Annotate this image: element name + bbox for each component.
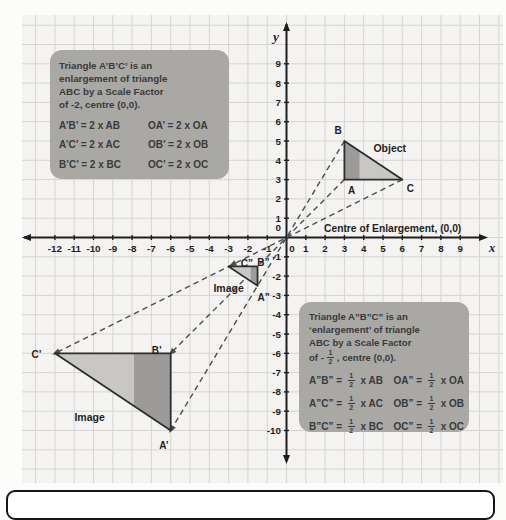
infobox-line: ‘enlargement’ of triangle	[309, 323, 464, 336]
x-tick-label: 7	[419, 243, 425, 254]
vertex-label: B’	[152, 345, 162, 356]
x-tick-label: -9	[108, 243, 117, 254]
equation-list: A’B’ = 2 x AB OA’ = 2 x OA A’C’ = 2 x AC…	[59, 120, 223, 170]
equation: A”C” = 12 x AC	[309, 395, 394, 412]
equation: OB’ = 2 x OB	[148, 139, 208, 150]
y-tick-label: 0	[276, 222, 282, 233]
next-section-frame	[6, 490, 495, 520]
x-tick-label: 2	[322, 243, 328, 254]
infobox-line: enlargement of triangle	[59, 72, 223, 85]
y-tick-label: 9	[276, 58, 282, 69]
x-tick-label: -11	[67, 243, 81, 254]
x-tick-label: 3	[342, 243, 348, 254]
equation: A’C’ = 2 x AC	[59, 139, 148, 150]
y-tick-label: 6	[276, 116, 282, 127]
equation: A’B’ = 2 x AB	[59, 120, 148, 131]
triangle-name-label: Object	[373, 142, 406, 154]
y-tick-label: 3	[276, 174, 282, 185]
infobox-line: Triangle A”B”C” is an	[309, 310, 464, 323]
one-half-fraction: 12	[428, 372, 435, 389]
y-tick-label: -2	[272, 271, 281, 282]
y-tick-label: 5	[276, 136, 282, 147]
equation-row: A’B’ = 2 x AB OA’ = 2 x OA	[59, 120, 223, 131]
equation-row: A’C’ = 2 x AC OB’ = 2 x OB	[59, 139, 223, 150]
x-tick-label: 4	[361, 243, 367, 254]
x-tick-label: -4	[205, 243, 214, 254]
one-half-fraction: 12	[348, 418, 355, 435]
equation-row: A”C” = 12 x AC OB” = 12 x OB	[309, 395, 464, 412]
x-tick-label: -2	[244, 243, 253, 254]
x-tick-label: 0	[289, 243, 295, 254]
fraction-denominator: 2	[328, 358, 332, 366]
equation: B”C” = 12 x BC	[309, 418, 394, 435]
x-tick-label: -8	[128, 243, 137, 254]
one-half-fraction: 12	[348, 372, 355, 389]
equation: OB” = 12 x OB	[394, 395, 464, 412]
x-tick-label: 8	[438, 243, 444, 254]
y-tick-label: -3	[272, 290, 281, 301]
equation: B’C’ = 2 x BC	[59, 159, 148, 170]
x-tick-label: -3	[224, 243, 233, 254]
infobox-paragraph: Triangle A’B’C’ is an enlargement of tri…	[59, 59, 223, 111]
y-axis-letter: y	[271, 29, 280, 44]
y-tick-label: -8	[272, 386, 281, 397]
y-tick-label: 2	[276, 193, 282, 204]
vertex-label: A’	[159, 440, 169, 451]
vertex-label: C”	[241, 258, 253, 269]
one-half-fraction: 12	[348, 395, 355, 412]
one-half-fraction: 1 2	[327, 349, 334, 366]
x-axis-letter: x	[488, 241, 495, 255]
infobox-line: Triangle A’B’C’ is an	[59, 59, 223, 72]
one-half-fraction: 12	[428, 418, 435, 435]
y-tick-label: 4	[276, 155, 282, 166]
y-tick-label: -9	[272, 406, 281, 417]
y-tick-label: -10	[267, 425, 282, 436]
x-tick-label: 9	[457, 243, 463, 254]
y-tick-label: -4	[272, 309, 281, 320]
equation-row: B”C” = 12 x BC OC” = 12 x OC	[309, 418, 464, 435]
equation-row: B’C’ = 2 x BC OC’ = 2 x OC	[59, 159, 223, 170]
x-tick-label: -7	[147, 243, 156, 254]
equation-row: A”B” = 12 x AB OA” = 12 x OA	[309, 372, 464, 389]
equation: OC’ = 2 x OC	[148, 159, 208, 170]
vertex-label: A	[348, 185, 355, 196]
equation-list: A”B” = 12 x AB OA” = 12 x OA A”C” = 12 x…	[309, 372, 464, 435]
infobox-line: ABC by a Scale Factor	[59, 85, 223, 98]
x-tick-label: 5	[380, 243, 386, 254]
x-tick-label: -5	[186, 243, 195, 254]
equation: A”B” = 12 x AB	[309, 372, 394, 389]
fraction-numerator: 1	[327, 349, 334, 358]
x-tick-label: -6	[166, 243, 175, 254]
vertex-label: A”	[258, 292, 270, 303]
infobox-line: ABC by a Scale Factor	[309, 336, 464, 349]
vertex-label: B	[335, 125, 342, 136]
infobox-line: of - 1 2 , centre (0,0).	[309, 349, 464, 366]
x-tick-label: -12	[48, 243, 63, 254]
vertex-label: B”	[257, 257, 269, 268]
scale-factor-minus-half-infobox: Triangle A”B”C” is an ‘enlargement’ of t…	[299, 302, 469, 432]
y-tick-label: -6	[272, 348, 281, 359]
triangle-name-label: Image	[74, 411, 105, 423]
x-tick-label: 1	[303, 243, 309, 254]
infobox-line-text: , centre (0,0).	[337, 351, 396, 364]
y-tick-label: 8	[276, 78, 282, 89]
x-tick-label: -10	[86, 243, 101, 254]
y-tick-label: -5	[272, 329, 281, 340]
y-tick-label: -7	[272, 367, 281, 378]
equation: OA” = 12 x OA	[394, 372, 464, 389]
infobox-line: of -2, centre (0,0).	[59, 98, 223, 111]
centre-of-enlargement-caption: Centre of Enlargement, (0,0)	[324, 223, 461, 234]
equation: OA’ = 2 x OA	[148, 120, 208, 131]
y-tick-label: -1	[272, 251, 281, 262]
vertex-label: C’	[32, 349, 42, 360]
scale-factor-minus-2-infobox: Triangle A’B’C’ is an enlargement of tri…	[50, 50, 229, 179]
y-tick-label: 7	[276, 97, 282, 108]
infobox-paragraph: Triangle A”B”C” is an ‘enlargement’ of t…	[309, 310, 464, 366]
equation: OC” = 12 x OC	[394, 418, 464, 435]
triangle-name-label: Image	[213, 282, 244, 294]
vertex-label: C	[407, 183, 414, 194]
infobox-line-text: of -	[309, 351, 324, 364]
one-half-fraction: 12	[428, 395, 435, 412]
x-tick-label: 6	[400, 243, 406, 254]
